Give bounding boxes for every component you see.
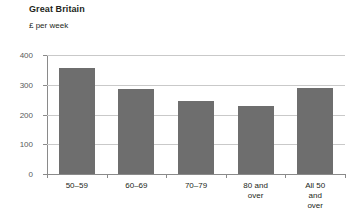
y-axis-tick-mark <box>43 115 47 116</box>
gridline <box>47 55 345 56</box>
y-axis-tick-mark <box>43 144 47 145</box>
y-axis-tick-label: 0 <box>0 170 33 179</box>
bar <box>238 106 274 174</box>
chart-title: Great Britain <box>29 4 85 14</box>
x-axis-tick-label: 80 and over <box>243 181 267 201</box>
x-axis-line <box>47 174 345 175</box>
y-axis-tick-label: 100 <box>0 140 33 149</box>
x-axis-tick-mark <box>226 174 227 178</box>
x-axis-tick-mark <box>107 174 108 178</box>
x-axis-tick-mark <box>345 174 346 178</box>
plot-area: 010020030040050–5960–6970–7980 and overA… <box>47 55 345 174</box>
x-axis-tick-label: All 50 and over <box>300 181 330 211</box>
bar <box>59 68 95 174</box>
x-axis-tick-label: 60–69 <box>125 181 147 191</box>
x-axis-tick-label: 70–79 <box>185 181 207 191</box>
bar <box>118 89 154 174</box>
y-axis-tick-label: 300 <box>0 80 33 89</box>
bar-chart-figure: Great Britain £ per week 010020030040050… <box>0 0 352 213</box>
x-axis-tick-mark <box>285 174 286 178</box>
x-axis-tick-mark <box>166 174 167 178</box>
y-axis-tick-label: 200 <box>0 110 33 119</box>
y-axis-tick-label: 400 <box>0 51 33 60</box>
chart-subtitle: £ per week <box>29 21 68 30</box>
x-axis-tick-mark <box>47 174 48 178</box>
bar <box>297 88 333 174</box>
y-axis-tick-mark <box>43 55 47 56</box>
bar <box>178 101 214 174</box>
y-axis-tick-mark <box>43 85 47 86</box>
x-axis-tick-label: 50–59 <box>66 181 88 191</box>
